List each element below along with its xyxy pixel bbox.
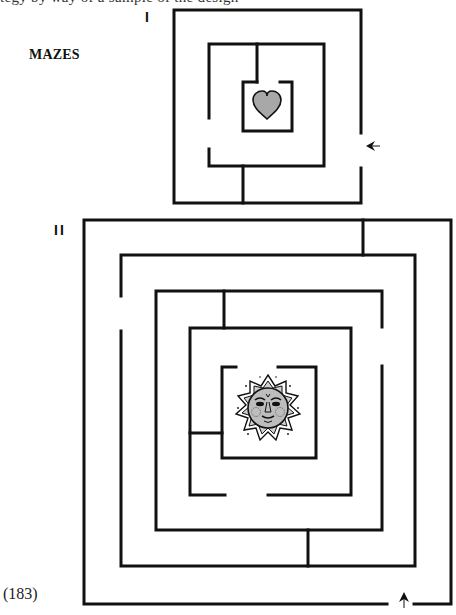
sun-face-icon <box>236 375 300 440</box>
arrow-up-icon <box>399 592 409 608</box>
maze-2 <box>84 220 451 608</box>
maze-1 <box>174 10 380 203</box>
arrow-left-icon <box>366 141 380 151</box>
heart-icon <box>253 91 281 119</box>
